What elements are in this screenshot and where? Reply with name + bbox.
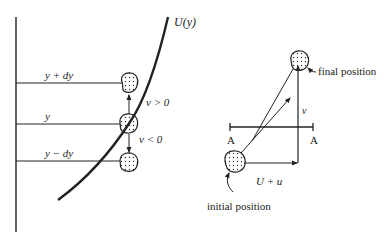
final-position-label: final position	[318, 65, 377, 77]
horizontal-velocity-label: U + u	[256, 175, 283, 187]
fluid-parcel-upper	[122, 73, 138, 93]
displacement-path	[241, 98, 290, 153]
level-label-middle: y	[44, 110, 50, 122]
fluid-parcel-lower	[120, 153, 138, 172]
vertical-velocity-label: v	[302, 105, 307, 116]
left-panel: U(y) y + dy y y − dy v > 0 v < 0	[16, 15, 196, 232]
displacement-diagonal	[252, 69, 293, 141]
plane-label-right: A	[310, 134, 318, 146]
plane-label-left: A	[227, 134, 235, 146]
mixing-length-diagram: U(y) y + dy y y − dy v > 0 v < 0 A A v U…	[0, 0, 388, 234]
level-label-upper: y + dy	[44, 69, 73, 81]
fluid-parcel-initial	[225, 151, 245, 172]
level-label-lower: y − dy	[44, 147, 73, 159]
velocity-profile-curve	[58, 17, 168, 200]
final-position-pointer	[308, 68, 316, 72]
fluid-parcel-final	[291, 51, 309, 71]
initial-position-pointer	[227, 173, 233, 192]
velocity-label-positive: v > 0	[146, 96, 170, 108]
right-panel: A A v U + u final position initial posit…	[207, 51, 377, 212]
fluid-parcel-middle	[120, 114, 138, 133]
curve-label: U(y)	[174, 15, 196, 29]
velocity-label-negative: v < 0	[139, 133, 163, 145]
initial-position-label: initial position	[207, 200, 271, 212]
